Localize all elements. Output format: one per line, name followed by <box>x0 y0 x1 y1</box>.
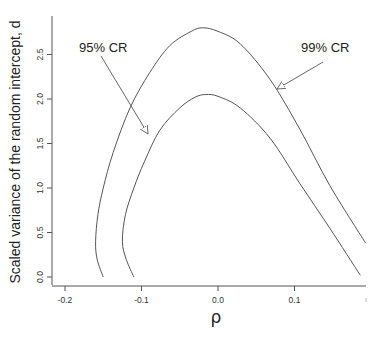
x-tick-label: -0.1 <box>134 295 149 305</box>
y-tick-label: 0.5 <box>35 226 45 238</box>
y-axis-title: Scaled variance of the random intercept,… <box>7 20 23 283</box>
annotation-99-label: 99% CR <box>301 40 349 55</box>
curve-99-cr <box>96 28 366 277</box>
annotation-99-arrow <box>277 62 323 89</box>
y-tick-label: 1.5 <box>35 137 45 149</box>
x-axis-title: ρ <box>211 307 222 327</box>
y-axis-ticks: 0.00.51.01.52.02.5 <box>35 48 52 283</box>
x-axis-ticks: -0.2-0.10.00.1 <box>58 286 366 305</box>
x-tick-label: -0.2 <box>58 295 73 305</box>
annotations: 95% CR 99% CR <box>79 40 349 134</box>
x-tick-label: 0.0 <box>212 295 224 305</box>
y-tick-label: 2.0 <box>35 93 45 105</box>
x-tick-label: 0.1 <box>289 295 301 305</box>
series-layer <box>96 28 366 277</box>
y-tick-label: 1.0 <box>35 182 45 194</box>
y-tick-label: 2.5 <box>35 48 45 60</box>
confidence-region-chart: 0.00.51.01.52.02.5 -0.2-0.10.00.1 95% CR… <box>0 0 389 339</box>
y-tick-label: 0.0 <box>35 271 45 283</box>
curve-95-cr <box>122 94 360 277</box>
annotation-95-label: 95% CR <box>79 40 127 55</box>
